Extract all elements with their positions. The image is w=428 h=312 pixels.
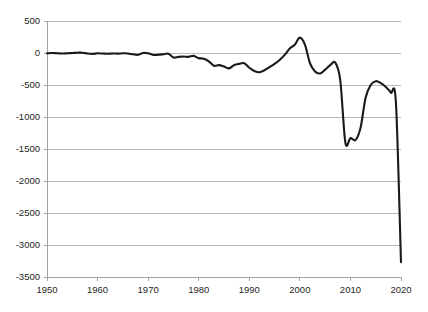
y-tick-label: -1500 — [16, 143, 40, 154]
line-chart: 5000-500-1000-1500-2000-2500-3000-3500 1… — [0, 0, 428, 312]
y-tick-label: 0 — [35, 47, 40, 58]
data-series — [47, 38, 401, 263]
y-tick-label: -1000 — [16, 111, 40, 122]
chart-container: 5000-500-1000-1500-2000-2500-3000-3500 1… — [0, 0, 428, 312]
tick-marks — [44, 21, 402, 281]
y-axis-tick-labels: 5000-500-1000-1500-2000-2500-3000-3500 — [16, 15, 40, 282]
y-tick-label: 500 — [24, 15, 40, 26]
y-tick-label: -2500 — [16, 207, 40, 218]
x-tick-label: 1970 — [138, 284, 159, 295]
y-tick-label: -3500 — [16, 271, 40, 282]
x-tick-label: 1950 — [36, 284, 57, 295]
y-tick-label: -3000 — [16, 239, 40, 250]
x-tick-label: 2020 — [390, 284, 411, 295]
series-line — [47, 38, 401, 263]
x-tick-label: 2010 — [340, 284, 361, 295]
y-tick-label: -2000 — [16, 175, 40, 186]
x-tick-label: 2000 — [289, 284, 310, 295]
x-tick-label: 1960 — [87, 284, 108, 295]
x-axis-tick-labels: 19501960197019801990200020102020 — [36, 284, 411, 295]
gridlines — [47, 21, 401, 245]
x-tick-label: 1980 — [188, 284, 209, 295]
x-tick-label: 1990 — [239, 284, 260, 295]
y-tick-label: -500 — [21, 79, 40, 90]
